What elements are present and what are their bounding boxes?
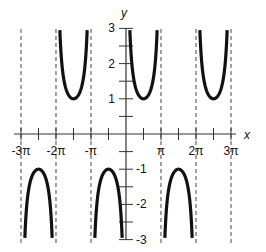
y-tick-label: -1: [136, 162, 147, 176]
x-axis-label: x: [243, 128, 251, 142]
x-tick-label: 3π: [224, 144, 239, 158]
curve-branch: [130, 30, 157, 99]
y-tick-label: 1: [108, 92, 115, 106]
curve-branch: [165, 169, 192, 238]
curve-branch: [60, 30, 87, 99]
x-tick-label: 2π: [189, 144, 204, 158]
x-tick-label: -3π: [12, 144, 31, 158]
curve-branch: [200, 30, 227, 99]
y-tick-label: -3: [136, 233, 147, 247]
x-tick-label: -2π: [47, 144, 66, 158]
y-axis-label: y: [120, 6, 128, 20]
x-tick-label: -π: [85, 144, 97, 158]
csc-graph: -3π-2π-ππ2π3π321-1-2-3xy: [0, 0, 266, 252]
y-tick-label: 3: [108, 21, 115, 35]
y-tick-label: -2: [136, 197, 147, 211]
plot-area: -3π-2π-ππ2π3π321-1-2-3xy: [0, 0, 266, 252]
curve-branch: [25, 169, 52, 238]
curve-branch: [95, 169, 122, 238]
y-tick-label: 2: [108, 57, 115, 71]
x-tick-label: π: [157, 144, 165, 158]
